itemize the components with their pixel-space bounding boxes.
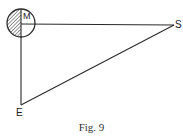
moon-label: M bbox=[23, 12, 31, 21]
figure-caption: Fig. 9 bbox=[0, 121, 183, 133]
figure-canvas: M S E Fig. 9 bbox=[0, 0, 183, 139]
earth-label: E bbox=[16, 108, 23, 118]
sun-label: S bbox=[175, 20, 182, 30]
line-moon-sun bbox=[21, 24, 174, 25]
line-earth-sun bbox=[21, 25, 174, 105]
